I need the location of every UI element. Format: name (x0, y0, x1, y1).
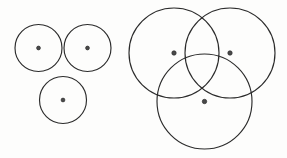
tangent-circle-top-left-center-dot (37, 46, 41, 50)
overlap-circle-top-right-center-dot (228, 51, 232, 55)
overlap-circle-bottom-center-dot (202, 99, 206, 103)
tangent-circle-bottom-center-dot (61, 98, 65, 102)
circle-diagram (0, 0, 287, 158)
diagram-background (0, 0, 287, 158)
figure-canvas (0, 0, 287, 158)
overlap-circle-top-left-center-dot (172, 51, 176, 55)
tangent-circle-top-right-center-dot (86, 46, 90, 50)
